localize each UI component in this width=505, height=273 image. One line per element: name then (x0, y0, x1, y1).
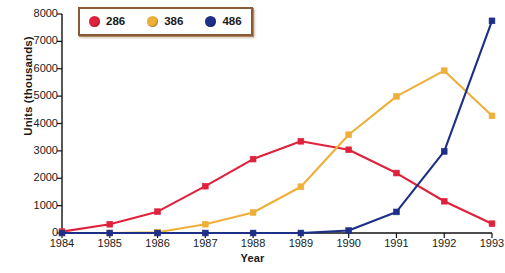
data-point-486-1992 (441, 149, 447, 155)
data-point-286-1993 (489, 221, 495, 227)
series-line-386 (62, 71, 492, 233)
legend-label: 486 (222, 16, 241, 28)
data-point-286-1989 (298, 138, 304, 144)
data-point-286-1988 (250, 156, 256, 162)
data-point-286-1987 (202, 183, 208, 189)
data-point-286-1991 (394, 170, 400, 176)
data-point-386-1990 (346, 132, 352, 138)
data-point-486-1984 (59, 230, 65, 236)
data-point-486-1985 (107, 230, 113, 236)
data-point-386-1991 (394, 94, 400, 100)
x-axis-tick-label: 1993 (464, 237, 505, 249)
data-point-486-1989 (298, 230, 304, 236)
x-axis-title: Year (0, 252, 505, 264)
data-point-286-1990 (346, 147, 352, 153)
line-chart: Units (thousands) 0100020003000400050006… (0, 0, 505, 273)
legend-item-486[interactable]: 486 (205, 16, 241, 28)
data-point-386-1989 (298, 184, 304, 190)
legend-swatch-icon (147, 16, 158, 27)
series-line-486 (62, 21, 492, 233)
legend-item-386[interactable]: 386 (147, 16, 183, 28)
legend-item-286[interactable]: 286 (89, 16, 125, 28)
legend-swatch-icon (89, 16, 100, 27)
series-line-286 (62, 141, 492, 231)
legend-label: 386 (164, 16, 183, 28)
chart-legend: 286386486 (78, 7, 253, 36)
data-point-486-1991 (394, 209, 400, 215)
data-point-486-1987 (202, 230, 208, 236)
data-point-386-1987 (202, 221, 208, 227)
data-point-386-1993 (489, 113, 495, 119)
legend-label: 286 (106, 16, 125, 28)
legend-swatch-icon (205, 16, 216, 27)
data-point-386-1992 (441, 68, 447, 74)
data-point-486-1990 (346, 228, 352, 234)
data-point-286-1985 (107, 221, 113, 227)
data-point-486-1986 (155, 230, 161, 236)
data-point-286-1986 (155, 209, 161, 215)
data-point-386-1988 (250, 210, 256, 216)
plot-area (0, 0, 505, 273)
data-point-486-1993 (489, 18, 495, 24)
data-point-286-1992 (441, 198, 447, 204)
data-point-486-1988 (250, 230, 256, 236)
